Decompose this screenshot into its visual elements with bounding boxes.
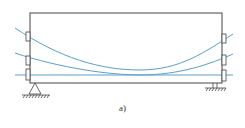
cables: [15, 28, 233, 75]
middle-cable: [15, 53, 233, 75]
pin-support-icon: [22, 83, 50, 98]
beam-outline: [30, 13, 222, 83]
anchor-icon: [26, 32, 30, 41]
right-anchors: [222, 34, 226, 81]
anchor-icon: [222, 70, 226, 81]
anchor-icon: [26, 56, 30, 65]
left-anchors: [26, 32, 30, 80]
roller-support-icon: [205, 83, 226, 91]
figure-caption: a): [0, 103, 245, 113]
top-cable: [15, 28, 233, 70]
anchor-icon: [222, 55, 226, 65]
anchor-icon: [26, 69, 30, 80]
anchor-icon: [222, 34, 226, 43]
